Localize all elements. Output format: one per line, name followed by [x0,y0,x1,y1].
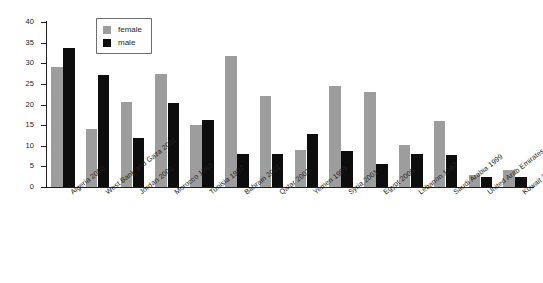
x-tick-label: Algeria 2000 [69,190,74,196]
y-tick-label: 5 [0,162,34,170]
legend-label-female: female [118,26,142,34]
chart-legend: female male [96,18,152,54]
y-tick-label: 10 [0,142,34,150]
bar-chart: percent 0510152025303540 Algeria 2000Wes… [0,0,543,283]
x-tick-label: United Arab Emirates 1999 [486,190,491,196]
y-tick-label: 0 [0,183,34,191]
x-tick-label: Egypt 2000 [382,190,387,196]
legend-swatch-female-icon [103,26,111,34]
legend-item-male: male [103,36,142,49]
legend-label-male: male [118,39,135,47]
bar-male [202,120,214,187]
x-tick-label: Syria 2001 [347,190,352,196]
x-tick-label: Kuwait 2003 [521,190,526,196]
x-tick-label: Bahrain 2001 [243,190,248,196]
legend-swatch-male-icon [103,39,111,47]
x-tick-label: Tunisia 1997 [208,190,213,196]
x-tick-label: Saudi Arabia 1999 [452,190,457,196]
cropped-caption-strip [0,0,543,7]
y-tick-label: 40 [0,18,34,26]
y-tick-label: 25 [0,80,34,88]
x-tick-label: West Bank and Gaza 2001 [104,190,109,196]
bar-male [307,134,319,187]
y-tick-label: 15 [0,121,34,129]
y-tick-label: 30 [0,59,34,67]
bar-male [63,48,75,187]
x-tick-label: Yemen 1999 [312,190,317,196]
y-tick-label: 35 [0,39,34,47]
y-tick-label: 20 [0,101,34,109]
x-tick-label: Qatar 2002 [278,190,283,196]
x-tick-label: Morocco 1999 [173,190,178,196]
legend-item-female: female [103,23,142,36]
x-tick-label: Jordan 2000 [138,190,143,196]
x-tick-label: Lebanon 1997 [417,190,422,196]
bar-female [51,67,63,187]
